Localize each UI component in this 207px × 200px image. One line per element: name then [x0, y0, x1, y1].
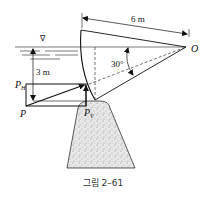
angle-label: 30° — [111, 59, 124, 69]
gate-arc — [81, 30, 95, 100]
dim-3m-label: 3 m — [36, 67, 50, 77]
pivot-label: O — [191, 43, 198, 54]
gate-bottom-arm — [95, 47, 186, 100]
radial-gate-diagram: ∇ 6 m O 30° 3 m PH P PV 그림 2–61 — [0, 0, 207, 200]
resultant-force-arrow — [26, 85, 84, 106]
water-surface — [15, 47, 186, 59]
pier — [67, 101, 135, 168]
dim-6m-label: 6 m — [131, 14, 145, 24]
label-horizontal-component: PH — [14, 79, 26, 91]
figure-caption: 그림 2–61 — [83, 177, 124, 188]
water-level-symbol: ∇ — [39, 34, 46, 43]
angle-arc — [127, 48, 133, 75]
label-resultant: P — [19, 108, 26, 119]
gate-top-arm — [81, 30, 186, 47]
resultant-line-of-action — [84, 47, 186, 86]
